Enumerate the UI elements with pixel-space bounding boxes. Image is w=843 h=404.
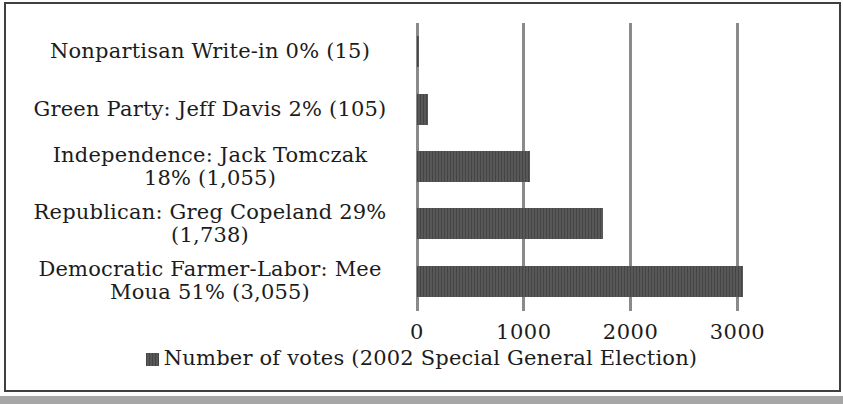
category-label-democratic-farmer-labor-mee-moua: Democratic Farmer-Labor: MeeMoua 51% (3,… (8, 256, 412, 306)
legend-label: Number of votes (2002 Special General El… (164, 346, 698, 370)
category-label-line: Democratic Farmer-Labor: Mee (8, 258, 412, 281)
category-label-line: Republican: Greg Copeland 29% (8, 201, 412, 224)
category-label-nonpartisan-write-in: Nonpartisan Write-in 0% (15) (8, 38, 412, 65)
legend-swatch-icon (146, 353, 159, 366)
legend: Number of votes (2002 Special General El… (0, 346, 843, 370)
category-label-republican-greg-copeland: Republican: Greg Copeland 29%(1,738) (8, 199, 412, 249)
bar-nonpartisan-write-in (417, 36, 419, 67)
category-label-line: Moua 51% (3,055) (8, 281, 412, 304)
category-label-line: (1,738) (8, 224, 412, 247)
category-label-line: 18% (1,055) (8, 167, 412, 190)
category-label-line: Independence: Jack Tomczak (8, 144, 412, 167)
category-label-line: Nonpartisan Write-in 0% (15) (8, 40, 412, 63)
bar-independence-jack-tomczak (417, 151, 530, 182)
scan-shadow-band (0, 396, 843, 404)
bar-democratic-farmer-labor-mee-moua (417, 266, 743, 297)
category-label-line: Green Party: Jeff Davis 2% (105) (8, 98, 412, 121)
x-tick-label-3000: 3000 (710, 320, 765, 344)
category-label-green-party-jeff-davis: Green Party: Jeff Davis 2% (105) (8, 96, 412, 123)
x-tick-label-2000: 2000 (603, 320, 658, 344)
x-tick-label-0: 0 (410, 320, 424, 344)
bar-republican-greg-copeland (417, 208, 603, 239)
scanned-chart-image: Nonpartisan Write-in 0% (15)Green Party:… (0, 0, 843, 404)
x-tick-label-1000: 1000 (496, 320, 551, 344)
bar-green-party-jeff-davis (417, 94, 428, 125)
category-label-independence-jack-tomczak: Independence: Jack Tomczak18% (1,055) (8, 142, 412, 192)
